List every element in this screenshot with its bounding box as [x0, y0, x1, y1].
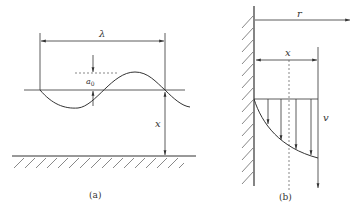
- panel-a-caption: (a): [89, 190, 101, 200]
- distance-label: x: [285, 47, 291, 58]
- radial-axis-label: r: [297, 8, 303, 19]
- wall-hatching: [242, 16, 253, 184]
- figure-canvas: λ a0 x: [0, 0, 357, 212]
- depth-label: x: [155, 118, 161, 129]
- ground-hatching: [14, 158, 184, 168]
- panel-b-caption: (b): [279, 192, 292, 202]
- velocity-profile-curve: [254, 99, 318, 158]
- wavelength-label: λ: [98, 28, 105, 39]
- panel-b: r x v (b): [242, 6, 350, 202]
- panel-a: λ a0 x: [12, 28, 196, 200]
- amplitude-label: a0: [86, 77, 95, 87]
- velocity-label: v: [323, 112, 329, 123]
